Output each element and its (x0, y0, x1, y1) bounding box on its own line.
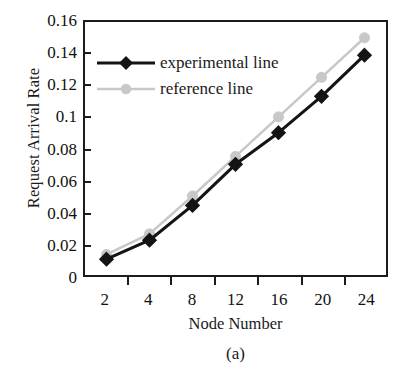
y-axis-tick-mark (83, 116, 91, 118)
legend-label: experimental line (156, 53, 278, 73)
legend-item: experimental line (96, 50, 278, 76)
data-point-marker (359, 33, 369, 43)
data-point-marker (273, 112, 283, 122)
legend-item: reference line (96, 76, 278, 102)
x-axis-tick-label: 20 (300, 290, 346, 310)
y-axis-tick-label: 0.14 (23, 44, 77, 61)
x-axis-tick-mark (257, 277, 259, 285)
y-axis-tick-label: 0.16 (23, 12, 77, 29)
x-axis-tick-label: 24 (343, 290, 389, 310)
y-axis-tick-label: 0.12 (23, 76, 77, 93)
legend-marker-sample (96, 80, 156, 98)
x-axis-tick-label: 12 (213, 290, 259, 310)
y-axis-tick-mark (83, 213, 91, 215)
y-axis-tick-mark (83, 245, 91, 247)
y-axis-tick-labels: 0.160.140.120.10.080.060.040.020 (23, 0, 77, 377)
chart-figure: Request Arrival Rate 0.160.140.120.10.08… (0, 0, 403, 377)
x-axis-tick-mark (127, 277, 129, 285)
x-axis-tick-mark (301, 277, 303, 285)
x-axis-tick-mark (214, 277, 216, 285)
y-axis-tick-label: 0.08 (23, 140, 77, 157)
x-axis-tick-label: 2 (82, 290, 128, 310)
y-axis-tick-label: 0 (23, 269, 77, 286)
legend-label: reference line (156, 79, 253, 99)
figure-caption: (a) (83, 344, 388, 364)
y-axis-tick-label: 0.06 (23, 172, 77, 189)
y-axis-tick-mark (83, 181, 91, 183)
y-axis-tick-mark (83, 52, 91, 54)
data-point-marker (316, 72, 326, 82)
y-axis-tick-label: 0.1 (23, 108, 77, 125)
y-axis-tick-label: 0.04 (23, 204, 77, 221)
y-axis-tick-label: 0.02 (23, 236, 77, 253)
diamond-marker-icon (96, 54, 156, 72)
x-axis-tick-label: 16 (256, 290, 302, 310)
legend-marker-sample (96, 54, 156, 72)
y-axis-tick-mark (83, 149, 91, 151)
chart-legend: experimental linereference line (96, 50, 278, 102)
y-axis-tick-mark (83, 84, 91, 86)
x-axis-tick-mark (344, 277, 346, 285)
x-axis-tick-label: 4 (125, 290, 171, 310)
circle-marker-icon (96, 80, 156, 98)
x-axis-tick-label: 8 (169, 290, 215, 310)
x-axis-tick-mark (170, 277, 172, 285)
x-axis-title: Node Number (83, 314, 388, 334)
